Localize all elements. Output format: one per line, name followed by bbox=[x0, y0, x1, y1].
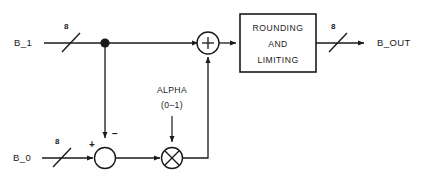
subtractor-minus-sign: − bbox=[112, 128, 118, 139]
block-label-line-3: LIMITING bbox=[257, 55, 298, 65]
alpha-control-group: ALPHA (0–1) bbox=[157, 85, 187, 142]
multiplier-group bbox=[162, 148, 183, 169]
adder-group bbox=[196, 32, 236, 54]
bus-width-label-b0: 8 bbox=[55, 137, 60, 146]
diagram-canvas: B_1 8 ROUNDING AND LIMITING bbox=[0, 0, 423, 179]
subtractor-circle bbox=[95, 148, 116, 169]
subtractor-group: + − bbox=[89, 128, 160, 169]
bus-width-label-b1: 8 bbox=[64, 22, 69, 31]
alpha-label: ALPHA bbox=[157, 85, 187, 95]
subtractor-plus-sign: + bbox=[89, 139, 95, 150]
block-label-line-1: ROUNDING bbox=[253, 23, 304, 33]
output-bout-group: 8 B_OUT bbox=[316, 22, 411, 52]
rounding-limiting-block-group: ROUNDING AND LIMITING bbox=[240, 14, 316, 72]
junction-b1-group bbox=[100, 38, 109, 138]
input-label-b0: B_0 bbox=[13, 152, 31, 163]
output-label-bout: B_OUT bbox=[377, 37, 411, 48]
input-label-b1: B_1 bbox=[14, 37, 32, 48]
signal-flow-diagram: B_1 8 ROUNDING AND LIMITING bbox=[0, 0, 423, 179]
feedback-path-group bbox=[183, 57, 208, 158]
input-b0-group: B_0 8 bbox=[13, 137, 93, 167]
alpha-range-label: (0–1) bbox=[161, 100, 183, 110]
wire-multiplier-to-adder bbox=[183, 57, 208, 158]
block-label-line-2: AND bbox=[268, 39, 288, 49]
bus-width-label-bout: 8 bbox=[331, 22, 336, 31]
